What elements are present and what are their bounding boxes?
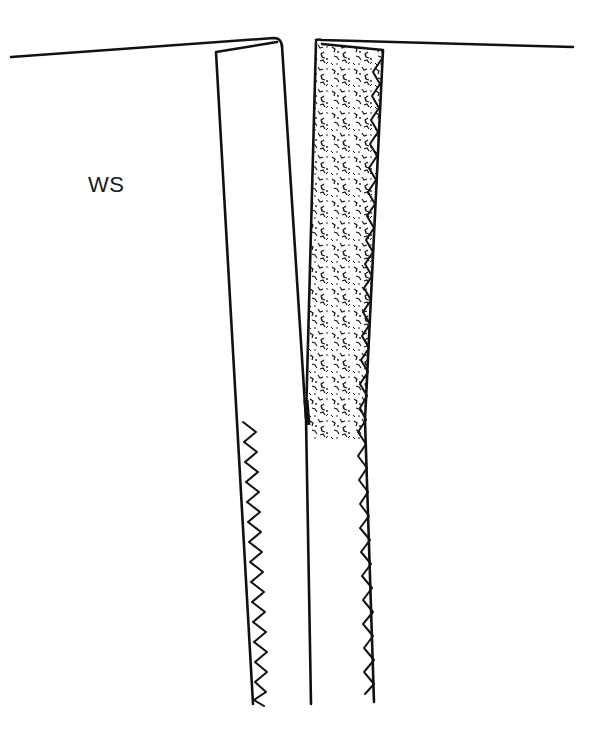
right-garment-edge xyxy=(316,40,573,48)
left-zigzag-finish-icon xyxy=(243,422,267,706)
center-seam xyxy=(306,418,311,704)
wrong-side-label: WS xyxy=(88,172,124,198)
seam-diagram xyxy=(0,0,593,734)
left-seam-allowance xyxy=(216,42,306,704)
